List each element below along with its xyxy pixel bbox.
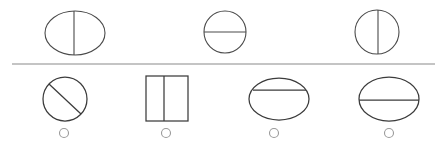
option-4-figure[interactable] [359,77,419,121]
ellipse-outline [249,78,309,120]
option-3-figure[interactable] [249,78,309,120]
option-4-radio[interactable] [385,129,394,138]
figure-illustration [0,0,443,146]
option-2-radio[interactable] [162,129,171,138]
option-2-figure[interactable] [146,76,188,121]
rectangle-outline [146,76,188,121]
prompt-shape-1 [45,11,105,55]
prompt-shape-2 [204,11,246,53]
shape-quiz-canvas [0,0,443,146]
prompt-shape-3 [355,10,399,54]
option-1-radio[interactable] [60,129,69,138]
option-3-radio[interactable] [270,129,279,138]
circle-outline [355,10,399,54]
ellipse-outline [45,11,105,55]
ellipse-outline [359,77,419,121]
option-1-figure[interactable] [43,77,87,121]
diagonal-divider-line [49,84,81,114]
